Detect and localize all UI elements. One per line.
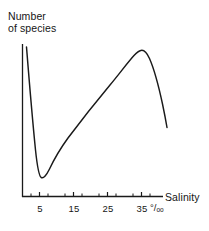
x-axis-label: Salinity xyxy=(165,191,200,203)
species-salinity-curve xyxy=(27,47,168,178)
x-tick-label-35: 35 xyxy=(132,203,152,214)
x-tick-label-25: 25 xyxy=(98,203,118,214)
chart-figure: Number of species Salinity 5 15 25 xyxy=(0,0,209,231)
x-tick-label-15: 15 xyxy=(64,203,84,214)
y-axis-label: Number of species xyxy=(8,11,56,34)
x-axis-unit-permille: °/ₒₒ xyxy=(150,202,164,213)
x-tick-label-5: 5 xyxy=(30,203,50,214)
